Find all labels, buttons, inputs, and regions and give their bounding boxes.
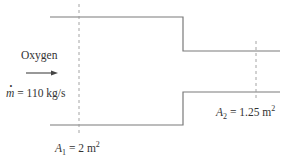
- duct-drawing: [0, 0, 296, 163]
- mass-flow-symbol: m: [6, 87, 14, 99]
- inlet-area-symbol: A: [55, 142, 62, 154]
- inlet-area-equals: =: [69, 142, 76, 154]
- inlet-area-value: 2 m: [78, 142, 96, 154]
- outlet-area-subscript: 2: [223, 112, 227, 121]
- outlet-area-value: 1.25 m: [239, 106, 271, 118]
- mass-flow-label: m = 110 kg/s: [6, 87, 65, 99]
- mass-flow-equals: =: [17, 87, 24, 99]
- outlet-area-unit-power: 2: [271, 104, 275, 113]
- inlet-area-label: A1 = 2 m2: [55, 140, 100, 157]
- flow-arrow-icon: [26, 71, 58, 76]
- fluid-label: Oxygen: [21, 49, 57, 61]
- outlet-area-symbol: A: [216, 106, 223, 118]
- mass-flow-value: 110 kg/s: [27, 87, 66, 99]
- inlet-area-unit-power: 2: [96, 140, 100, 149]
- duct-upper-wall: [50, 17, 280, 51]
- outlet-area-label: A2 = 1.25 m2: [216, 104, 275, 121]
- fluid-name: Oxygen: [21, 49, 57, 61]
- inlet-area-subscript: 1: [62, 148, 66, 157]
- outlet-area-equals: =: [230, 106, 237, 118]
